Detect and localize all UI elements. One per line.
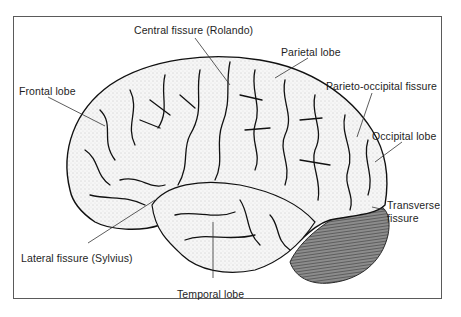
label-frontal-lobe: Frontal lobe	[19, 85, 76, 97]
label-transverse-fissure-line1: Transverse	[387, 199, 440, 211]
label-lateral-fissure: Lateral fissure (Sylvius)	[21, 252, 133, 264]
label-occipital-lobe: Occipital lobe	[372, 130, 436, 142]
label-parietal-lobe: Parietal lobe	[281, 46, 341, 58]
brain-illustration	[0, 0, 461, 317]
label-temporal-lobe: Temporal lobe	[177, 288, 244, 300]
label-parieto-occipital-fissure: Parieto-occipital fissure	[326, 80, 437, 92]
label-transverse-fissure-line2: fissure	[387, 212, 419, 224]
label-central-fissure: Central fissure (Rolando)	[134, 24, 253, 36]
